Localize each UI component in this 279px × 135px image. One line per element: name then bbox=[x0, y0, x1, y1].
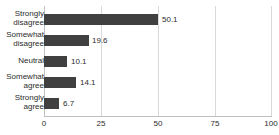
bar-value-label: 10.1 bbox=[71, 58, 87, 66]
category-label-strongly-disagree: Strongly disagree bbox=[2, 9, 44, 27]
category-label-line1: Strongly bbox=[2, 93, 44, 102]
bar-strongly-disagree bbox=[44, 14, 158, 25]
category-label-somewhat-disagree: Somewhat disagree bbox=[2, 30, 44, 48]
xtick-label-50: 50 bbox=[154, 120, 163, 128]
bar-value-label: 19.6 bbox=[92, 37, 108, 45]
bar-value-label: 14.1 bbox=[80, 79, 96, 87]
category-label-strongly-agree: Strongly agree bbox=[2, 93, 44, 111]
bar-neutral bbox=[44, 56, 67, 67]
category-label-line2: agree bbox=[2, 102, 44, 111]
bar-somewhat-disagree bbox=[44, 35, 89, 46]
bar-value-label: 50.1 bbox=[162, 16, 178, 24]
bar-strongly-agree bbox=[44, 98, 59, 109]
bar-value-label: 6.7 bbox=[63, 100, 74, 108]
category-label-line2: agree bbox=[2, 81, 44, 90]
xtick-label-100: 100 bbox=[264, 120, 277, 128]
category-label-line2: disagree bbox=[2, 39, 44, 48]
bar-chart: 50.1 19.6 10.1 14.1 6.7 Strongly disagre… bbox=[0, 0, 279, 135]
plot-area: 50.1 19.6 10.1 14.1 6.7 bbox=[44, 6, 272, 116]
x-axis-line bbox=[44, 116, 272, 117]
xtick-label-25: 25 bbox=[97, 120, 106, 128]
xtick-label-75: 75 bbox=[211, 120, 220, 128]
gridline-100 bbox=[271, 6, 272, 116]
category-label-line1: Strongly bbox=[2, 9, 44, 18]
bar-somewhat-agree bbox=[44, 77, 76, 88]
xtick-label-0: 0 bbox=[42, 120, 46, 128]
category-label-somewhat-agree: Somewhat agree bbox=[2, 72, 44, 90]
gridline-75 bbox=[215, 6, 216, 116]
category-label-line1: Somewhat bbox=[2, 30, 44, 39]
category-label-line1: Neutral bbox=[2, 56, 44, 65]
category-label-neutral: Neutral bbox=[2, 56, 44, 65]
category-label-line2: disagree bbox=[2, 18, 44, 27]
category-label-line1: Somewhat bbox=[2, 72, 44, 81]
